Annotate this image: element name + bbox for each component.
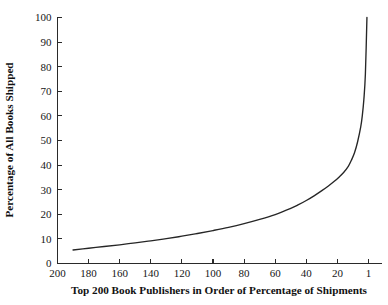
x-tick-label: 180 — [80, 267, 97, 279]
y-tick-label: 100 — [35, 11, 52, 23]
x-tick-label: 200 — [49, 267, 66, 279]
y-tick-label: 40 — [41, 159, 53, 171]
x-axis-title: Top 200 Book Publishers in Order of Perc… — [71, 284, 368, 296]
chart-container: 0102030405060708090100 20018016014012010… — [0, 0, 388, 305]
y-tick-label: 20 — [41, 208, 53, 220]
x-tick-label: 80 — [239, 267, 251, 279]
x-tick-label: 120 — [174, 267, 191, 279]
y-tick-label: 80 — [41, 61, 53, 73]
y-tick-label: 60 — [41, 110, 53, 122]
line-chart: 0102030405060708090100 20018016014012010… — [0, 0, 388, 305]
y-tick-label: 50 — [41, 134, 53, 146]
x-tick-label: 100 — [205, 267, 222, 279]
x-tick-label: 60 — [270, 267, 282, 279]
y-tick-label: 10 — [41, 233, 53, 245]
y-axis-title: Percentage of All Books Shipped — [3, 62, 15, 218]
data-curve-line — [73, 18, 367, 250]
y-tick-label: 90 — [41, 36, 53, 48]
x-tick-label: 20 — [332, 267, 344, 279]
y-tick-label: 70 — [41, 85, 53, 97]
x-tick-label: 1 — [366, 267, 372, 279]
y-tick-label: 30 — [41, 184, 53, 196]
x-tick-label: 40 — [301, 267, 313, 279]
x-tick-label: 140 — [143, 267, 160, 279]
x-tick-label: 160 — [111, 267, 128, 279]
x-tick-group: 200180160140120100806040201 — [49, 259, 371, 279]
